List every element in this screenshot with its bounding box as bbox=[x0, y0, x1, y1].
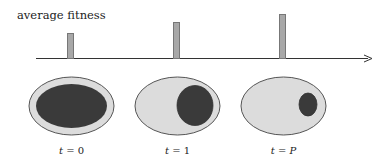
population-region bbox=[36, 84, 107, 128]
time-label-t1: t = 1 bbox=[165, 145, 190, 156]
y-axis-label: average fitness bbox=[17, 8, 106, 22]
time-label-tP: t = P bbox=[271, 145, 297, 156]
fitness-bar-tP bbox=[280, 15, 286, 59]
fitness-bar-t1 bbox=[174, 23, 180, 59]
fitness-bar-t0 bbox=[68, 34, 74, 59]
population-t0 bbox=[29, 77, 114, 135]
population-t1 bbox=[135, 77, 220, 135]
population-tP bbox=[241, 77, 326, 135]
population-region bbox=[299, 93, 317, 116]
time-label-t0: t = 0 bbox=[59, 145, 84, 156]
population-region bbox=[177, 86, 213, 126]
fitness-diagram: average fitness t = 0 t = 1 t = P bbox=[0, 0, 387, 164]
